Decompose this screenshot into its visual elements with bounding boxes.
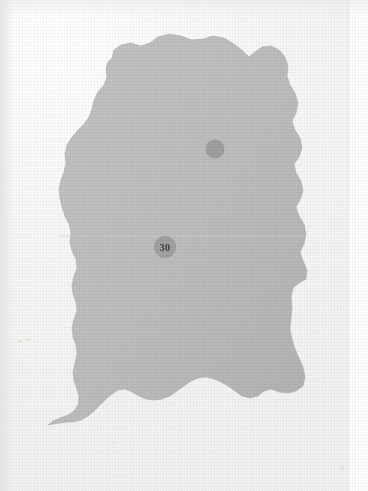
marker-label: 30 xyxy=(160,242,170,253)
scanned-map-page: 30 xyxy=(0,0,368,491)
plain-dot-marker[interactable] xyxy=(206,140,225,159)
numbered-marker-30[interactable]: 30 xyxy=(154,236,176,258)
map-figure: 30 xyxy=(0,0,368,491)
map-region-shape xyxy=(48,34,307,425)
marker-circle-icon xyxy=(206,140,225,159)
